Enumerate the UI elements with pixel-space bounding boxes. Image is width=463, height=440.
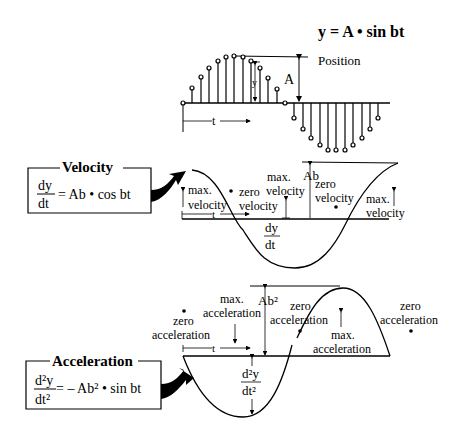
svg-text:dt²: dt² <box>35 392 50 407</box>
t-label: t <box>212 114 216 128</box>
svg-text:velocity: velocity <box>366 206 405 220</box>
svg-text:Ab²: Ab² <box>258 293 278 308</box>
svg-text:max.: max. <box>220 292 244 306</box>
acceleration-section: Acceleration d²y dt² = – Ab² • sin bt ze… <box>26 286 438 417</box>
svg-text:dt²: dt² <box>242 383 256 398</box>
position-section: y = A • sin bt Position A y t <box>181 23 405 152</box>
svg-text:max.: max. <box>267 170 291 184</box>
svg-text:max.: max. <box>331 328 355 342</box>
svg-text:max.: max. <box>366 192 390 206</box>
acceleration-curved-arrow <box>161 368 194 399</box>
svg-text:zero: zero <box>315 177 336 191</box>
svg-text:acceleration: acceleration <box>270 313 328 327</box>
svg-text:zero: zero <box>239 185 260 199</box>
y-label: y <box>252 77 257 88</box>
svg-text:velocity: velocity <box>266 184 305 198</box>
svg-text:zero: zero <box>290 299 311 313</box>
velocity-section: Velocity dy dt = Ab • cos bt max. veloci… <box>28 159 405 268</box>
position-equation: y = A • sin bt <box>318 23 405 41</box>
svg-text:d²y: d²y <box>242 366 259 381</box>
acceleration-title: Acceleration <box>52 353 133 369</box>
svg-text:zero: zero <box>173 314 194 328</box>
svg-text:dt: dt <box>265 237 276 252</box>
positive-stems <box>181 54 287 105</box>
velocity-curved-arrow <box>151 171 186 202</box>
svg-text:dy: dy <box>265 220 279 235</box>
svg-text:d²y: d²y <box>35 373 53 388</box>
motion-derivatives-diagram: y = A • sin bt Position A y t <box>0 0 463 440</box>
svg-text:zero: zero <box>400 299 421 313</box>
velocity-title: Velocity <box>62 159 114 175</box>
amplitude-label: A <box>284 72 295 87</box>
svg-text:max.: max. <box>188 183 212 197</box>
svg-text:acceleration: acceleration <box>380 313 438 327</box>
svg-text:velocity: velocity <box>239 199 278 213</box>
svg-text:t: t <box>212 342 215 354</box>
svg-text:dy: dy <box>38 178 52 193</box>
svg-text:velocity: velocity <box>188 198 227 212</box>
svg-text:acceleration: acceleration <box>313 342 371 356</box>
svg-text:dt: dt <box>38 196 49 211</box>
svg-text:acceleration: acceleration <box>152 328 210 342</box>
position-label: Position <box>318 53 361 68</box>
svg-text:t: t <box>212 208 215 220</box>
svg-text:velocity: velocity <box>315 191 354 205</box>
svg-text:acceleration: acceleration <box>203 306 261 320</box>
velocity-amplitude-line <box>302 162 398 163</box>
acceleration-equation-rhs: = – Ab² • sin bt <box>56 381 141 396</box>
negative-stems <box>292 103 380 152</box>
velocity-equation-rhs: = Ab • cos bt <box>58 187 131 202</box>
